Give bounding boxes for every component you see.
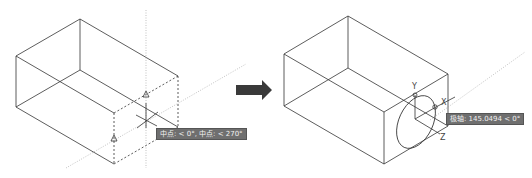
axis-label-x: X: [441, 98, 447, 107]
right-tracking-line: [430, 52, 525, 120]
cad-drawing: Y X Z: [0, 0, 532, 178]
left-box: [16, 19, 178, 164]
right-tooltip: 极轴: 145.0494 < 0°: [446, 113, 524, 125]
left-tooltip: 中点: < 0°, 中点: < 270°: [156, 128, 247, 140]
axis-label-y: Y: [411, 82, 417, 91]
axis-label-z: Z: [440, 133, 446, 142]
right-box: [284, 16, 448, 164]
left-cursor: [136, 103, 158, 128]
midpoint-marker-icon: [111, 91, 149, 141]
right-arrow-icon: [236, 80, 272, 100]
